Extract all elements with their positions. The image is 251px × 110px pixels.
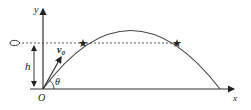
angle-label: θ — [55, 76, 60, 87]
star-marker-right: ★ — [172, 37, 182, 49]
star-marker-left: ★ — [78, 37, 88, 49]
y-axis-label: y — [33, 4, 39, 15]
height-label: h — [25, 60, 31, 72]
angle-arc — [49, 80, 54, 89]
velocity-label: v0 — [57, 44, 65, 57]
x-axis-tip-label: x — [232, 93, 237, 103]
origin-label: O — [38, 92, 45, 103]
drop-icon — [10, 40, 20, 45]
trajectory-curve — [43, 31, 220, 90]
projectile-diagram: ★ ★ y x x x x O h θ v0 — [0, 0, 251, 110]
